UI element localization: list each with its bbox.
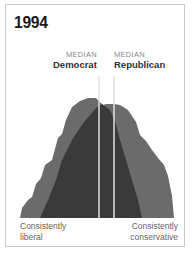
axis-label-conservative-line1: Consistently [130, 221, 178, 232]
axis-label-liberal: Consistently liberal [20, 221, 66, 243]
distribution-chart [0, 0, 192, 256]
axis-label-conservative: Consistently conservative [130, 221, 178, 243]
axis-label-liberal-line1: Consistently [20, 221, 66, 232]
axis-label-liberal-line2: liberal [20, 232, 66, 243]
axis-label-conservative-line2: conservative [130, 232, 178, 243]
